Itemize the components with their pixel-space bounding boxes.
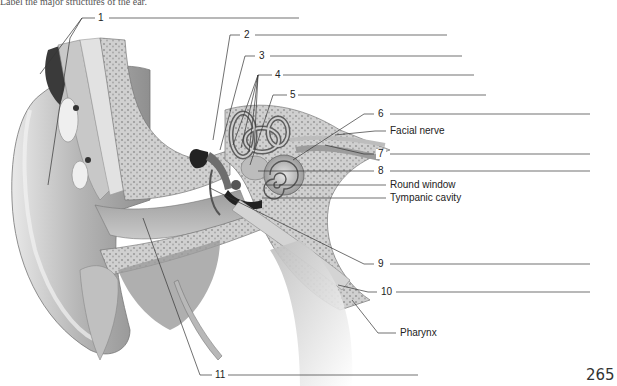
label-8: 8: [376, 166, 386, 176]
label-10: 10: [379, 287, 394, 297]
label-9: 9: [376, 259, 386, 269]
label-4: 4: [273, 70, 283, 80]
label-facial-nerve: Facial nerve: [388, 126, 446, 136]
label-pharynx: Pharynx: [398, 328, 439, 338]
label-3: 3: [257, 51, 267, 61]
ear-illustration: [0, 0, 617, 386]
label-round-window: Round window: [388, 180, 458, 190]
label-5: 5: [288, 90, 298, 100]
ear-diagram: Label the major structures of the ear.: [0, 0, 617, 386]
label-2: 2: [242, 30, 252, 40]
page-number: 265: [586, 366, 615, 384]
label-7: 7: [376, 149, 386, 159]
pharynx-wall: [270, 240, 352, 386]
label-tympanic-cavity: Tympanic cavity: [388, 193, 463, 203]
label-1: 1: [96, 13, 106, 23]
label-11: 11: [213, 370, 227, 380]
label-6: 6: [376, 109, 386, 119]
